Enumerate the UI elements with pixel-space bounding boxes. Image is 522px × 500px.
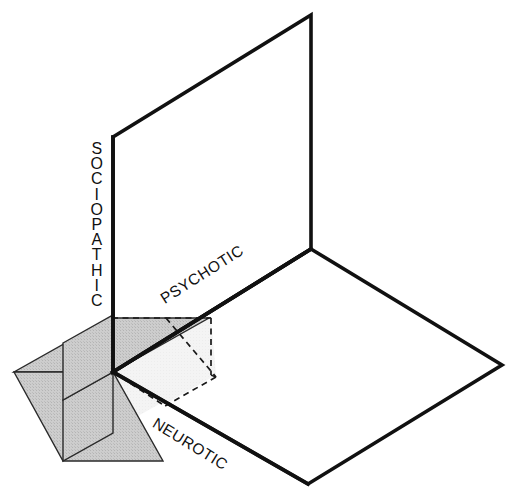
sociopathic-letter: P (91, 217, 102, 232)
sociopathic-letter: O (91, 202, 104, 217)
diagram-canvas (0, 0, 522, 500)
sociopathic-letter: I (95, 278, 100, 293)
figure-caption (0, 489, 522, 500)
axis-label-sociopathic: S O C I O P A T H I C (86, 141, 108, 308)
sociopathic-letter: C (91, 171, 103, 186)
figure-root: S O C I O P A T H I C PSYCHOTIC NEUROTIC (0, 0, 522, 500)
sociopathic-letter: C (91, 293, 103, 308)
sociopathic-letter: A (91, 232, 102, 247)
sociopathic-letter: O (91, 156, 104, 171)
sociopathic-letter: H (91, 263, 103, 278)
sociopathic-letter: I (95, 187, 100, 202)
sociopathic-letter: S (91, 141, 102, 156)
sociopathic-letter: T (92, 247, 102, 262)
